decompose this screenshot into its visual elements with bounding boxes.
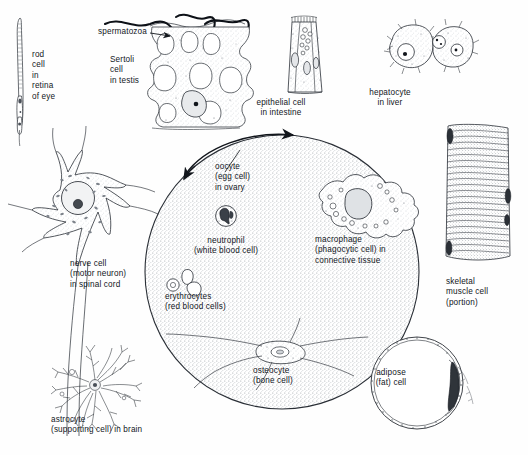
epithelial-cell-drawing [288,16,322,94]
hepatocyte-drawing [384,19,479,74]
label-oocyte: oocyte (egg cell) in ovary [215,162,250,193]
neutrophil-drawing [216,206,237,227]
label-erythrocytes: erythrocytes (red blood cells) [165,292,226,313]
label-neutrophil: neutrophil (white blood cell) [176,236,276,257]
label-skeletal-muscle: skeletal muscle cell (portion) [446,277,488,308]
label-epithelial-cell: epithelial cell in intestine [241,98,321,119]
label-nerve-cell: nerve cell (motor neuron) in spinal cord [70,259,126,290]
label-rod-cell: rod cell in retina of eye [32,50,55,102]
label-osteocyte: osteocyte (bone cell) [253,366,293,387]
rod-cell-drawing [17,18,23,146]
label-adipose-cell: adipose (fat) cell [356,368,426,389]
label-hepatocyte: hepatocyte in liver [350,88,430,109]
label-sertoli-cell: Sertoli cell in testis [110,55,139,86]
cell-types-figure: rod cell in retina of eye spermatozoa Se… [0,0,528,455]
label-macrophage: macrophage (phagocytic cell) in connecti… [315,235,386,266]
label-astrocyte: astrocyte (supporting cell) in brain [51,415,142,436]
skeletal-muscle-drawing [446,124,511,260]
label-spermatozoa: spermatozoa [98,27,147,37]
